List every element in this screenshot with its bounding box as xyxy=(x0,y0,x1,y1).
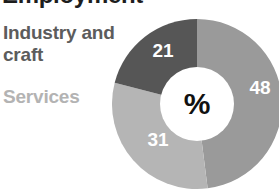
donut-chart: % 483121 xyxy=(112,18,279,190)
center-percent-symbol: % xyxy=(184,87,211,120)
donut-slice-label-31: 31 xyxy=(147,129,169,150)
donut-slice-label-48: 48 xyxy=(249,77,270,98)
donut-slice-label-21: 21 xyxy=(152,40,174,61)
donut-chart-svg: % 483121 xyxy=(112,18,279,190)
page-title-clip: Employment xyxy=(0,0,170,11)
infographic-root: Employment Industry and craft Services %… xyxy=(0,0,279,193)
page-title: Employment xyxy=(2,0,143,9)
